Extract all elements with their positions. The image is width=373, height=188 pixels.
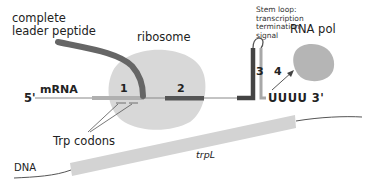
region-2-label: 2 [177, 83, 185, 96]
trp-attenuation-diagram: complete leader peptide ribosome Stem lo… [0, 0, 373, 188]
leader-peptide-label: complete leader peptide [12, 12, 96, 38]
mrna-label: mRNA [40, 84, 78, 97]
rna-pol-label: RNA pol [290, 23, 336, 36]
region-4-label: 4 [274, 66, 282, 79]
region-1-label: 1 [120, 83, 128, 96]
trp-codons-label: Trp codons [53, 135, 115, 148]
region-3-label: 3 [256, 66, 264, 79]
ribosome-label: ribosome [137, 31, 191, 44]
mrna-region-1 [92, 96, 144, 100]
dna-line-right [296, 117, 362, 121]
rna-pol-shape [293, 44, 334, 81]
dna-label: DNA [14, 162, 36, 174]
five-prime-label: 5' [24, 92, 36, 105]
trpL-gene-label: trpL [196, 150, 215, 161]
three-prime-end-label: UUUU 3' [268, 92, 324, 105]
mrna-region-2 [165, 96, 204, 101]
leader-peptide-label-line2: leader peptide [12, 25, 96, 38]
mrna-region-3 [237, 48, 253, 98]
